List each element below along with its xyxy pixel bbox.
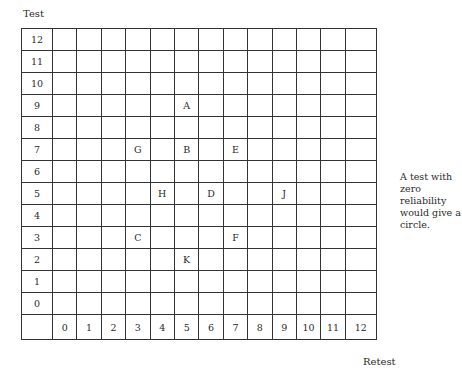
- grid-cell: [248, 161, 272, 183]
- y-tick-label: 4: [22, 205, 53, 227]
- grid-cell: [272, 117, 296, 139]
- grid-cell: [223, 271, 247, 293]
- y-tick-label: 7: [22, 139, 53, 161]
- x-tick-label: 3: [126, 315, 150, 340]
- grid-cell: [126, 293, 150, 315]
- grid-cell: [53, 117, 77, 139]
- y-tick-label: 6: [22, 161, 53, 183]
- grid-cell: [345, 161, 376, 183]
- point-label: E: [232, 144, 239, 155]
- grid-cell: [199, 29, 223, 51]
- grid-cell: [199, 139, 223, 161]
- annotation-note: A test with zero reliability would give …: [400, 171, 462, 231]
- y-tick-label: 9: [22, 95, 53, 117]
- grid-cell: [53, 205, 77, 227]
- grid-cell: B: [174, 139, 198, 161]
- grid-cell: [199, 205, 223, 227]
- y-tick-label: 0: [22, 293, 53, 315]
- grid-cell: [223, 161, 247, 183]
- point-label: F: [232, 232, 239, 243]
- grid-cell: [345, 139, 376, 161]
- grid-cell: [223, 73, 247, 95]
- grid-cell: [174, 205, 198, 227]
- grid-cell: [223, 293, 247, 315]
- grid-cell: [77, 271, 101, 293]
- grid-cell: [77, 293, 101, 315]
- grid-cell: [296, 161, 320, 183]
- grid-cell: [248, 293, 272, 315]
- grid-cell: [272, 271, 296, 293]
- grid-cell: [223, 183, 247, 205]
- grid-cell: [77, 51, 101, 73]
- grid-cell: [77, 161, 101, 183]
- grid-row: 5HDJ: [22, 183, 377, 205]
- grid-cell: [77, 183, 101, 205]
- grid-cell: [223, 95, 247, 117]
- grid-cell: [199, 117, 223, 139]
- grid-cell: [248, 249, 272, 271]
- grid-cell: [126, 73, 150, 95]
- grid-cell: [150, 293, 174, 315]
- x-tick-label: 5: [174, 315, 198, 340]
- grid-cell: K: [174, 249, 198, 271]
- x-tick-label: 0: [53, 315, 77, 340]
- y-axis-title: Test: [23, 8, 44, 19]
- grid-cell: [53, 293, 77, 315]
- y-tick-label: 2: [22, 249, 53, 271]
- grid-cell: [199, 51, 223, 73]
- grid-cell: [101, 293, 125, 315]
- grid-cell: [272, 139, 296, 161]
- x-tick-label: 2: [101, 315, 125, 340]
- grid-row: 12: [22, 29, 377, 51]
- grid-cell: [77, 95, 101, 117]
- x-tick-label: 7: [223, 315, 247, 340]
- grid-cell: [223, 205, 247, 227]
- grid-cell: [272, 73, 296, 95]
- point-label: J: [282, 188, 286, 199]
- grid-row: 1: [22, 271, 377, 293]
- point-label: G: [134, 144, 142, 155]
- grid-cell: [296, 73, 320, 95]
- grid-cell: [296, 95, 320, 117]
- grid-cell: [101, 249, 125, 271]
- x-tick-label: 12: [345, 315, 376, 340]
- grid-cell: [272, 51, 296, 73]
- grid-cell: [345, 51, 376, 73]
- grid-cell: [321, 293, 345, 315]
- grid-cell: [126, 271, 150, 293]
- grid-cell: [248, 73, 272, 95]
- grid-cell: [126, 183, 150, 205]
- grid-cell: [199, 227, 223, 249]
- grid-cell: [101, 227, 125, 249]
- grid-cell: [150, 95, 174, 117]
- grid-cell: [53, 161, 77, 183]
- grid-cell: [53, 271, 77, 293]
- grid-cell: [296, 205, 320, 227]
- grid-cell: [321, 73, 345, 95]
- grid-cell: [150, 139, 174, 161]
- y-tick-label: 12: [22, 29, 53, 51]
- x-axis-title: Retest: [363, 356, 396, 367]
- grid-cell: [345, 271, 376, 293]
- x-tick-label: 6: [199, 315, 223, 340]
- grid-cell: [174, 117, 198, 139]
- grid-cell: [77, 227, 101, 249]
- grid-cell: [53, 249, 77, 271]
- grid-cell: G: [126, 139, 150, 161]
- grid-cell: A: [174, 95, 198, 117]
- grid-cell: [321, 29, 345, 51]
- grid-row: 2K: [22, 249, 377, 271]
- grid-cell: [272, 249, 296, 271]
- grid-cell: [248, 271, 272, 293]
- grid-cell: [248, 227, 272, 249]
- grid-cell: [272, 293, 296, 315]
- grid-cell: [77, 249, 101, 271]
- grid-cell: [101, 73, 125, 95]
- grid-cell: [248, 183, 272, 205]
- grid-cell: [345, 117, 376, 139]
- grid-cell: [248, 51, 272, 73]
- grid-cell: [150, 161, 174, 183]
- grid-cell: [272, 29, 296, 51]
- grid-row: 11: [22, 51, 377, 73]
- grid-cell: J: [272, 183, 296, 205]
